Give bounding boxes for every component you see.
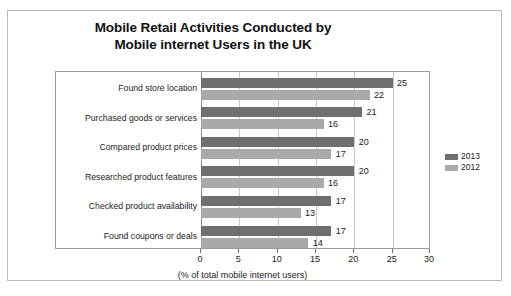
legend-item-2012: 2012 <box>445 161 480 172</box>
bar-2012 <box>201 149 331 159</box>
bar-2013 <box>201 107 362 117</box>
x-tick-label: 0 <box>188 254 212 264</box>
bar-2012 <box>201 119 324 129</box>
bar-row: Checked product availability 17 13 <box>201 192 429 222</box>
legend-label-2012: 2012 <box>461 162 480 173</box>
bar-2012 <box>201 178 324 188</box>
category-label: Researched product features <box>85 163 201 193</box>
bar-value-2012: 16 <box>328 178 338 188</box>
bar-2013 <box>201 78 393 88</box>
x-axis-title: (% of total mobile internet users) <box>55 270 430 280</box>
x-tick-label: 25 <box>380 254 404 264</box>
bar-row: Purchased goods or services 21 16 <box>201 104 429 134</box>
bar-value-2013: 17 <box>336 226 346 236</box>
category-label: Checked product availability <box>89 192 201 222</box>
x-tick-mark <box>238 249 239 253</box>
plot-inner: Found store location 25 22 Purchased goo… <box>201 72 429 248</box>
bar-value-2012: 17 <box>336 149 346 159</box>
chart-title-line-1: Mobile Retail Activities Conducted by <box>95 20 332 35</box>
bar-row: Found store location 25 22 <box>201 74 429 104</box>
bar-2012 <box>201 208 301 218</box>
legend-swatch-2013 <box>445 154 458 160</box>
bar-2012 <box>201 238 308 248</box>
x-tick-mark <box>353 249 354 253</box>
bar-value-2013: 20 <box>359 166 369 176</box>
bar-value-2013: 17 <box>336 196 346 206</box>
x-axis: 0 5 10 15 20 25 30 <box>55 249 430 250</box>
category-label: Compared product prices <box>99 133 201 163</box>
bar-value-2012: 13 <box>305 208 315 218</box>
bar-row: Researched product features 20 16 <box>201 163 429 193</box>
bar-value-2012: 22 <box>374 90 384 100</box>
bar-value-2012: 14 <box>313 238 323 248</box>
bar-row: Compared product prices 20 17 <box>201 133 429 163</box>
bar-value-2013: 25 <box>397 78 407 88</box>
chart-figure: Mobile Retail Activities Conducted by Mo… <box>7 10 502 281</box>
bar-2013 <box>201 226 331 236</box>
x-tick-mark <box>392 249 393 253</box>
bar-row: Found coupons or deals 17 14 <box>201 222 429 252</box>
x-tick-label: 15 <box>303 254 327 264</box>
bar-2013 <box>201 166 354 176</box>
bar-value-2013: 20 <box>359 137 369 147</box>
plot-area: Found store location 25 22 Purchased goo… <box>55 71 430 249</box>
legend-item-2013: 2013 <box>445 150 480 161</box>
category-label: Found coupons or deals <box>104 222 201 252</box>
x-tick-mark <box>429 249 430 253</box>
x-tick-mark <box>200 249 201 253</box>
bar-value-2013: 21 <box>366 107 376 117</box>
x-tick-mark <box>277 249 278 253</box>
bar-value-2012: 16 <box>328 119 338 129</box>
bar-2012 <box>201 90 370 100</box>
x-tick-label: 10 <box>265 254 289 264</box>
bar-2013 <box>201 137 354 147</box>
x-tick-label: 5 <box>226 254 250 264</box>
legend-swatch-2012 <box>445 165 458 171</box>
category-label: Found store location <box>118 74 201 104</box>
x-tick-label: 30 <box>417 254 441 264</box>
x-tick-mark <box>315 249 316 253</box>
chart-legend: 2013 2012 <box>445 150 480 172</box>
bar-2013 <box>201 196 331 206</box>
chart-title-line-2: Mobile internet Users in the UK <box>8 36 418 53</box>
category-label: Purchased goods or services <box>85 104 201 134</box>
x-tick-label: 20 <box>341 254 365 264</box>
chart-title: Mobile Retail Activities Conducted by Mo… <box>8 19 418 53</box>
